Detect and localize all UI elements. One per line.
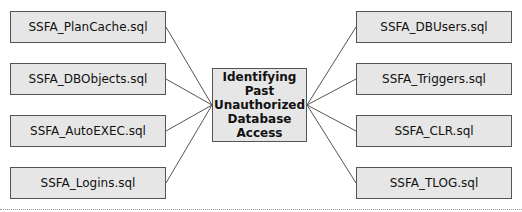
node-plancache: SSFA_PlanCache.sql (10, 11, 166, 43)
node-label: SSFA_Triggers.sql (382, 72, 486, 86)
node-label: SSFA_DBUsers.sql (380, 20, 487, 34)
node-label: SSFA_TLOG.sql (390, 176, 479, 190)
node-tlog: SSFA_TLOG.sql (356, 167, 512, 199)
node-label: SSFA_Logins.sql (41, 176, 136, 190)
node-label: SSFA_DBObjects.sql (29, 72, 148, 86)
node-label: SSFA_AutoEXEC.sql (30, 124, 146, 138)
bottom-divider (0, 209, 522, 210)
node-label: SSFA_CLR.sql (394, 124, 473, 138)
node-clr: SSFA_CLR.sql (356, 115, 512, 147)
central-topic-label: Identifying Past Unauthorized Database A… (214, 70, 305, 140)
node-dbusers: SSFA_DBUsers.sql (356, 11, 512, 43)
node-autoexec: SSFA_AutoEXEC.sql (10, 115, 166, 147)
node-logins: SSFA_Logins.sql (10, 167, 166, 199)
node-triggers: SSFA_Triggers.sql (356, 63, 512, 95)
node-dbobjects: SSFA_DBObjects.sql (10, 63, 166, 95)
central-topic: Identifying Past Unauthorized Database A… (212, 68, 307, 142)
node-label: SSFA_PlanCache.sql (28, 20, 147, 34)
